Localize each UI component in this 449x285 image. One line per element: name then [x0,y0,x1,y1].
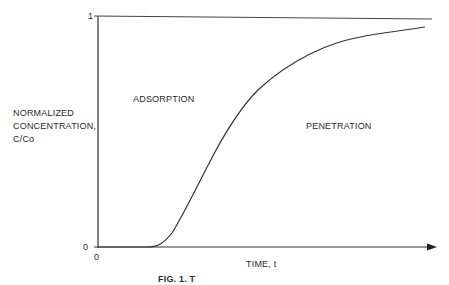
x-tick-label-zero: 0 [94,251,99,263]
breakthrough-curve [98,27,425,247]
y-tick-label-one: 1 [88,10,93,22]
x-axis-label: TIME, t [246,258,276,270]
x-axis-arrow-icon [427,244,437,251]
y-axis-label-line3: C/Co [13,133,34,145]
figure-caption: FIG. 1. T [158,273,195,285]
saturation-reference-line [94,16,432,19]
y-tick-label-zero: 0 [83,241,88,253]
y-axis-label-line2: CONCENTRATION, [13,120,96,132]
region-label-adsorption: ADSORPTION [133,93,195,105]
y-axis-label-line1: NORMALIZED [13,107,74,119]
region-label-penetration: PENETRATION [306,120,372,132]
